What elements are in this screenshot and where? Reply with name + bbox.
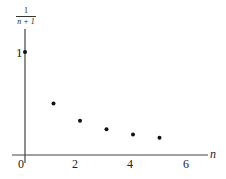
x-axis-label: n: [210, 148, 216, 160]
data-point: [52, 102, 56, 106]
data-point: [23, 50, 27, 54]
data-point: [131, 132, 135, 136]
x-tick-0: 0: [18, 158, 24, 170]
data-point: [105, 127, 109, 131]
y-tick-1: 1: [16, 47, 23, 59]
chart-plot-area: [0, 0, 226, 179]
x-tick-4: 4: [127, 158, 133, 170]
data-point: [78, 119, 82, 123]
data-point: [158, 136, 162, 140]
y-axis-label: 1 n + 1: [16, 6, 36, 26]
x-tick-6: 6: [183, 158, 189, 170]
data-points: [23, 50, 162, 140]
y-label-numerator: 1: [16, 6, 36, 17]
y-label-denominator: n + 1: [16, 17, 36, 26]
x-tick-2: 2: [72, 158, 78, 170]
